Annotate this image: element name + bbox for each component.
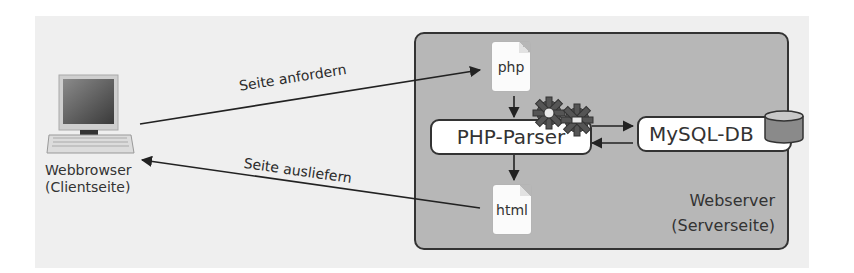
database-cylinder-icon — [0, 0, 854, 273]
